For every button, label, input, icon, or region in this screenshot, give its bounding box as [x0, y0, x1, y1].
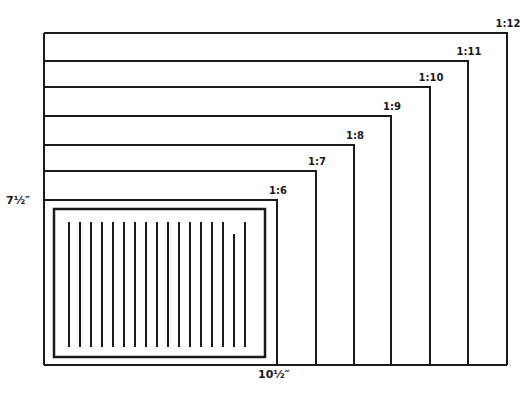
ratio-label: 1:12 [496, 18, 521, 29]
ratio-frame-1-9 [44, 116, 391, 365]
width-label: 10½″ [258, 368, 290, 381]
ratio-frame-1-11 [44, 61, 468, 365]
ratio-label: 1:6 [269, 185, 287, 196]
frame-ratio-diagram [0, 0, 532, 399]
ratio-label: 1:8 [346, 130, 364, 141]
ratio-label: 1:9 [383, 101, 401, 112]
ratio-label: 1:10 [419, 72, 444, 83]
page-illustration [54, 209, 265, 357]
ratio-frame-1-6 [44, 200, 277, 365]
ratio-label: 1:7 [308, 156, 326, 167]
height-label: 7½″ [6, 194, 30, 207]
ratio-label: 1:11 [457, 46, 482, 57]
